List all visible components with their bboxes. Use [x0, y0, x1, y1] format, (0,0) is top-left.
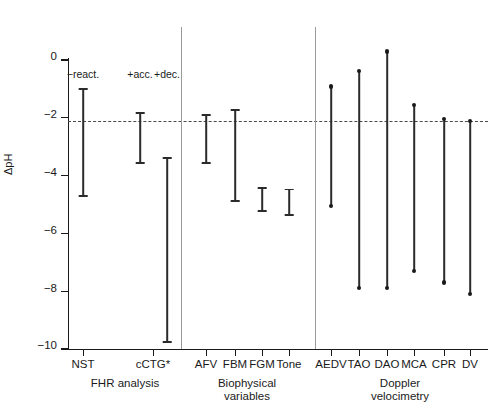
x-tick: [83, 350, 84, 356]
range-cap-bottom: [79, 195, 88, 197]
x-axis-label-cpr: CPR: [432, 358, 456, 370]
x-tick: [153, 350, 154, 356]
range-cap-top: [202, 114, 211, 116]
x-tick: [387, 350, 388, 356]
interval-bar: [139, 112, 141, 164]
x-tick: [444, 350, 445, 356]
x-axis-label-dao: DAO: [375, 358, 400, 370]
y-tick-label: −4: [44, 167, 57, 179]
y-tick-label: −6: [44, 225, 57, 237]
group-separator-2: [315, 27, 316, 349]
group-caption-line: Biophysical: [218, 377, 276, 390]
interval-bar: [288, 189, 290, 216]
group-caption-fhr: FHR analysis: [91, 377, 159, 390]
x-tick: [359, 350, 360, 356]
range-dot-bottom: [329, 204, 333, 208]
y-tick-label: −2: [44, 109, 57, 121]
y-tick-minus4: −4: [61, 175, 68, 176]
x-axis-label-mca: MCA: [401, 358, 427, 370]
interval-bar: [386, 51, 388, 288]
x-tick: [235, 350, 236, 356]
range-cap-top: [163, 157, 172, 159]
group-separator-1: [181, 27, 182, 349]
range-cap-top: [79, 88, 88, 90]
series-annotation: +dec.: [154, 68, 180, 80]
x-tick: [470, 350, 471, 356]
x-axis-label-fbm: FBM: [223, 358, 247, 370]
interval-bar: [358, 71, 360, 288]
range-cap-bottom: [202, 162, 211, 164]
y-axis-title: ΔpH: [2, 154, 14, 175]
range-dot-bottom: [357, 286, 361, 290]
group-caption-line: FHR analysis: [91, 377, 159, 390]
chart-figure: ΔpH 0−2−4−6−8−10 −react.+acc.+dec. NSTcC…: [0, 0, 497, 403]
interval-bar: [443, 119, 445, 282]
range-dot-top: [385, 49, 389, 53]
x-tick: [331, 350, 332, 356]
y-tick-label: −8: [44, 283, 57, 295]
interval-bar: [234, 109, 236, 201]
range-cap-top: [285, 189, 294, 191]
x-axis-label-cctg: cCTG*: [136, 358, 171, 370]
x-axis-label-tao: TAO: [348, 358, 371, 370]
x-tick: [414, 350, 415, 356]
interval-bar: [330, 87, 332, 206]
x-tick: [262, 350, 263, 356]
interval-bar: [82, 88, 84, 197]
group-caption-line: Doppler: [371, 377, 429, 390]
group-caption-line: velocimetry: [371, 390, 429, 403]
range-cap-top: [231, 109, 240, 111]
range-dot-top: [329, 84, 333, 88]
reference-line-minus2: [68, 121, 488, 122]
interval-bar: [166, 157, 168, 343]
range-dot-bottom: [442, 280, 446, 284]
y-tick-label: −10: [37, 340, 57, 352]
y-tick-label: 0: [51, 51, 57, 63]
series-annotation: +acc.: [127, 68, 152, 80]
x-tick: [289, 350, 290, 356]
x-axis-line: [68, 349, 488, 350]
range-cap-top: [258, 187, 267, 189]
range-dot-top: [357, 69, 361, 73]
interval-bar: [413, 105, 415, 271]
group-caption-biophysical: Biophysicalvariables: [218, 377, 276, 402]
y-tick-minus10: −10: [61, 348, 68, 349]
group-caption-doppler: Dopplervelocimetry: [371, 377, 429, 402]
range-cap-bottom: [285, 214, 294, 216]
x-axis-label-aedv: AEDV: [315, 358, 346, 370]
y-axis-line: [68, 58, 69, 350]
range-dot-top: [412, 103, 416, 107]
range-dot-bottom: [468, 292, 472, 296]
y-tick-0: 0: [61, 59, 68, 60]
range-cap-bottom: [136, 162, 145, 164]
group-caption-line: variables: [218, 390, 276, 403]
interval-bar: [261, 187, 263, 212]
range-dot-bottom: [412, 269, 416, 273]
interval-bar: [469, 121, 471, 294]
range-dot-top: [468, 119, 472, 123]
y-tick-minus8: −8: [61, 291, 68, 292]
range-cap-bottom: [231, 200, 240, 202]
range-cap-bottom: [163, 341, 172, 343]
x-axis-label-nst: NST: [72, 358, 95, 370]
range-dot-bottom: [385, 286, 389, 290]
range-cap-top: [136, 112, 145, 114]
interval-bar: [205, 114, 207, 164]
series-annotation: −react.: [67, 68, 99, 80]
range-cap-bottom: [258, 210, 267, 212]
x-axis-label-dv: DV: [462, 358, 478, 370]
x-axis-label-fgm: FGM: [249, 358, 275, 370]
y-tick-minus6: −6: [61, 233, 68, 234]
x-axis-label-tone: Tone: [277, 358, 302, 370]
y-tick-minus2: −2: [61, 117, 68, 118]
x-axis-label-afv: AFV: [195, 358, 217, 370]
x-tick: [206, 350, 207, 356]
